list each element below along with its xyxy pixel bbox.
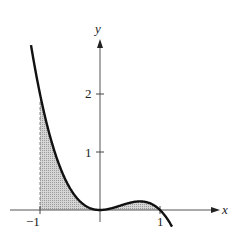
- y-tick-label-1: 1: [85, 145, 92, 160]
- x-tick-label-neg1: −1: [26, 214, 40, 229]
- chart: −1 1 2 1 x y: [0, 0, 229, 246]
- y-axis-arrow-icon: [97, 39, 103, 48]
- y-axis-label: y: [93, 21, 101, 36]
- x-axis-arrow-icon: [211, 207, 220, 213]
- x-axis-label: x: [221, 202, 228, 217]
- x-tick-label-1: 1: [157, 214, 164, 229]
- y-tick-label-2: 2: [85, 86, 92, 101]
